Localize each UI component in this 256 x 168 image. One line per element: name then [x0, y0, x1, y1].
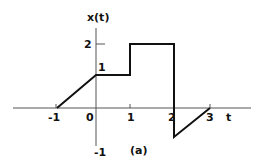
x-axis-label: t — [226, 111, 231, 124]
signal-plot: x(t) t 2 1 -1 -1 0 1 2 3 (a) — [0, 0, 256, 168]
tick-label-x-0: 0 — [86, 111, 94, 124]
tick-label-x-neg1: -1 — [48, 111, 60, 124]
tick-label-y-1: 1 — [98, 61, 106, 74]
tick-label-x-1: 1 — [127, 111, 135, 124]
tick-label-x-3: 3 — [206, 111, 214, 124]
tick-label-y-2: 2 — [84, 38, 92, 51]
tick-label-x-2: 2 — [168, 111, 176, 124]
y-axis-label: x(t) — [87, 11, 109, 24]
figure-caption: (a) — [130, 144, 147, 157]
tick-label-y-neg1: -1 — [94, 146, 106, 159]
